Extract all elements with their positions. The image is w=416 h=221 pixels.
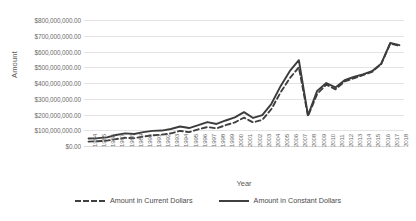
x-tick-label: 2006	[292, 134, 299, 147]
y-tick-label: $500,000,000.00	[35, 64, 81, 71]
legend-label: Amount in Constant Dollars	[254, 196, 342, 205]
x-tick-label: 2002	[256, 134, 263, 147]
x-tick-label: 1987	[118, 134, 125, 147]
x-tick-label: 1990	[146, 134, 153, 147]
x-tick-label: 1999	[228, 134, 235, 147]
line-chart: Amount $800,000,000.00$700,000,000.00$60…	[0, 0, 416, 221]
y-axis-tick-labels: $800,000,000.00$700,000,000.00$600,000,0…	[0, 0, 84, 150]
x-tick-label: 2001	[246, 134, 253, 147]
x-tick-label: 2013	[356, 134, 363, 147]
x-tick-label: 1991	[155, 134, 162, 147]
y-tick-label: $600,000,000.00	[35, 48, 81, 55]
x-tick-label: 1992	[164, 134, 171, 147]
y-tick-label: $700,000,000.00	[35, 32, 81, 39]
x-tick-label: 2011	[338, 134, 345, 147]
chart-legend: Amount in Current DollarsAmount in Const…	[0, 196, 416, 205]
x-tick-label: 2008	[310, 134, 317, 147]
x-tick-label: 2017	[393, 134, 400, 147]
x-tick-label: 1988	[128, 134, 135, 147]
legend-swatch-dashed	[75, 200, 105, 202]
series-line	[89, 43, 400, 139]
y-tick-label: $300,000,000.00	[35, 95, 81, 102]
x-tick-label: 1984	[91, 134, 98, 147]
x-tick-label: 1989	[137, 134, 144, 147]
y-tick-label: $200,000,000.00	[35, 111, 81, 118]
x-tick-label: 2018	[402, 134, 409, 147]
legend-item[interactable]: Amount in Constant Dollars	[219, 196, 342, 205]
x-tick-label: 1996	[201, 134, 208, 147]
x-axis-title: Year	[84, 179, 404, 188]
x-tick-label: 2003	[265, 134, 272, 147]
y-tick-label: $100,000,000.00	[35, 127, 81, 134]
x-tick-label: 1995	[192, 134, 199, 147]
x-tick-label: 2009	[320, 134, 327, 147]
y-tick-label: $800,000,000.00	[35, 17, 81, 24]
legend-item[interactable]: Amount in Current Dollars	[75, 196, 193, 205]
x-tick-label: 2010	[329, 134, 336, 147]
legend-label: Amount in Current Dollars	[110, 196, 193, 205]
x-tick-label: 2016	[384, 134, 391, 147]
x-tick-label: 2007	[301, 134, 308, 147]
x-tick-label: 2005	[283, 134, 290, 147]
y-tick-label: $400,000,000.00	[35, 80, 81, 87]
x-tick-label: 2015	[374, 134, 381, 147]
x-tick-label: 2000	[237, 134, 244, 147]
x-tick-label: 1994	[182, 134, 189, 147]
series-lines	[84, 20, 404, 146]
x-tick-label: 2004	[274, 134, 281, 147]
x-axis-tick-labels: 1984198519861987198819891990199119921993…	[84, 147, 404, 179]
x-tick-label: 1985	[100, 134, 107, 147]
legend-swatch-solid	[219, 200, 249, 202]
x-tick-label: 1997	[210, 134, 217, 147]
x-tick-label: 2012	[347, 134, 354, 147]
plot-area	[84, 20, 404, 146]
x-tick-label: 1993	[173, 134, 180, 147]
series-line	[89, 44, 400, 142]
x-tick-label: 2014	[365, 134, 372, 147]
x-tick-label: 1986	[109, 134, 116, 147]
y-tick-label: $0.00	[66, 143, 82, 150]
x-tick-label: 1998	[219, 134, 226, 147]
